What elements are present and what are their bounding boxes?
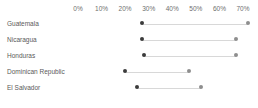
data-point-start[interactable]	[140, 37, 144, 41]
range-connector-line	[137, 88, 201, 89]
data-point-end[interactable]	[187, 69, 191, 73]
x-axis-tick-label: 10%	[95, 3, 108, 14]
category-label: Nicaragua	[7, 32, 37, 48]
chart-row: Dominican Republic	[0, 64, 258, 80]
range-connector-line	[142, 40, 236, 41]
data-point-end[interactable]	[234, 53, 238, 57]
x-axis-tick-label: 50%	[189, 3, 202, 14]
data-point-end[interactable]	[234, 37, 238, 41]
category-label: Dominican Republic	[7, 64, 65, 80]
chart-row: Honduras	[0, 48, 258, 64]
x-axis-tick-label: 0%	[73, 3, 82, 14]
x-axis-tick-label: 60%	[213, 3, 226, 14]
data-point-start[interactable]	[140, 21, 144, 25]
x-axis-tick-label: 40%	[166, 3, 179, 14]
chart-row: Nicaragua	[0, 32, 258, 48]
range-connector-line	[144, 56, 236, 57]
x-axis: 0%10%20%30%40%50%60%70%	[0, 3, 258, 14]
category-label: Guatemala	[7, 16, 39, 32]
category-label: El Salvador	[7, 80, 40, 96]
data-point-end[interactable]	[246, 21, 250, 25]
x-axis-tick-label: 30%	[142, 3, 155, 14]
chart-plot-area: GuatemalaNicaraguaHondurasDominican Repu…	[0, 16, 258, 108]
range-connector-line	[142, 24, 248, 25]
data-point-start[interactable]	[142, 53, 146, 57]
x-axis-tick-label: 70%	[236, 3, 249, 14]
data-point-end[interactable]	[199, 85, 203, 89]
category-label: Honduras	[7, 48, 35, 64]
chart-row: Guatemala	[0, 16, 258, 32]
chart-row: El Salvador	[0, 80, 258, 96]
x-axis-tick-label: 20%	[119, 3, 132, 14]
dumbbell-chart: 0%10%20%30%40%50%60%70% GuatemalaNicarag…	[0, 0, 258, 108]
range-connector-line	[125, 72, 189, 73]
data-point-start[interactable]	[135, 85, 139, 89]
